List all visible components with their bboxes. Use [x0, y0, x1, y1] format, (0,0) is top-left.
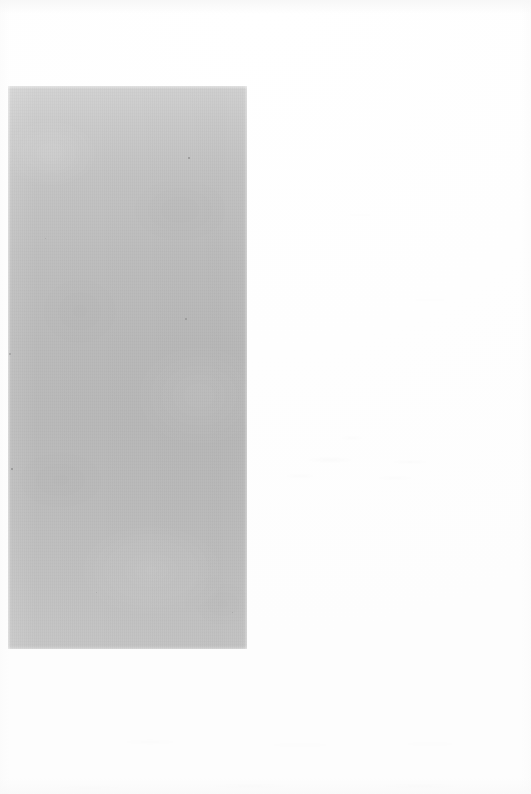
- scanned-page: [0, 0, 531, 794]
- blank-gray-plate: [8, 86, 247, 649]
- plate-paper-grain: [8, 86, 247, 649]
